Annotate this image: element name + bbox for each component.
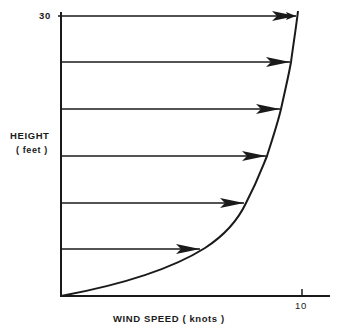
x-tick-label-10: 10 xyxy=(295,300,307,311)
y-axis-unit: ( feet ) xyxy=(16,145,48,155)
wind-profile-diagram xyxy=(0,0,342,334)
y-axis-label: HEIGHT xyxy=(10,130,50,141)
x-axis-label: WIND SPEED ( knots ) xyxy=(113,313,225,324)
y-tick-label-30: 30 xyxy=(39,10,51,21)
